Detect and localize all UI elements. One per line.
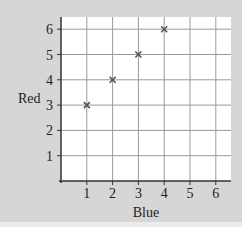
- x-tick-label: 2: [109, 186, 116, 201]
- x-tick-labels: 123456: [83, 181, 219, 201]
- x-tick-label: 1: [83, 186, 90, 201]
- y-tick-label: 2: [46, 123, 53, 138]
- y-tick-labels: 123456: [46, 22, 61, 164]
- x-tick-label: 5: [187, 186, 194, 201]
- x-tick-label: 6: [212, 186, 219, 201]
- y-tick-label: 3: [46, 98, 53, 113]
- y-axis-label: Red: [18, 91, 41, 106]
- scatter-chart: 123456 123456 Blue Red: [0, 0, 242, 227]
- x-tick-label: 3: [135, 186, 142, 201]
- y-tick-label: 6: [46, 22, 53, 37]
- y-tick-label: 4: [46, 73, 53, 88]
- x-tick-label: 4: [161, 186, 168, 201]
- y-tick-label: 1: [46, 149, 53, 164]
- x-axis-label: Blue: [133, 205, 159, 220]
- y-tick-label: 5: [46, 48, 53, 63]
